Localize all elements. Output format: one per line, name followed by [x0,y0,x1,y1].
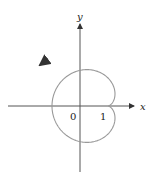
y-axis-label: y [76,11,83,22]
x-axis-label: x [140,101,146,112]
origin-label: 0 [70,111,76,122]
tick-label-one: 1 [100,111,106,122]
direction-arrow-icon [40,59,48,65]
cardioid-plot: y x 0 1 [0,0,154,178]
